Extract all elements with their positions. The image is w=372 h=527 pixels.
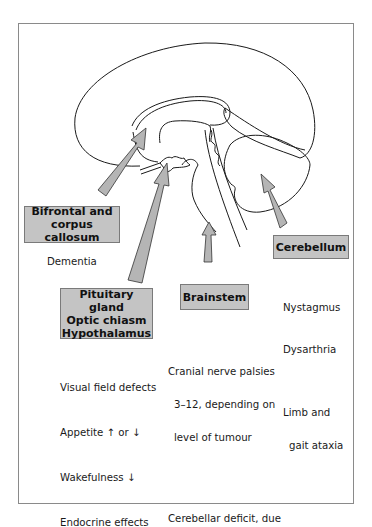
effect-wakefulness: Wakefulness ↓ (60, 470, 160, 485)
cerebellum-label: Cerebellum (276, 241, 347, 254)
effect-endocrine: Endocrine effects (60, 515, 160, 527)
effect-dysarthria: Dysarthria (283, 343, 343, 357)
corpus-callosum (132, 97, 230, 126)
cerebellum-label-box: Cerebellum (273, 235, 349, 259)
effect-nystagmus: Nystagmus (283, 301, 343, 315)
brainstem-label-box: Brainstem (180, 284, 249, 310)
optic-nerve-2 (141, 167, 161, 174)
thalamus (160, 121, 211, 143)
pituitary-label-line2: Optic chiasm (66, 314, 146, 327)
brainstem-anterior (182, 159, 216, 232)
bifrontal-label-box: Bifrontal and corpus callosum (24, 206, 120, 243)
pituitary-label-line1: Pituitary gland (61, 288, 152, 314)
cerebrum-outline (75, 43, 315, 166)
brainstem-effects: Cranial nerve palsies 3–12, depending on… (168, 322, 289, 527)
effect-appetite: Appetite ↑ or ↓ (60, 425, 160, 440)
cerebellum-effects: Nystagmus Dysarthria Limb and gait ataxi… (283, 273, 343, 487)
optic-nerve (140, 163, 160, 170)
arrow-cerebellum (261, 174, 287, 228)
effect-visual-field: Visual field defects (60, 380, 160, 395)
bifrontal-label-line1: Bifrontal and (31, 205, 112, 218)
bifrontal-effect-dementia: Dementia (47, 256, 97, 267)
arrow-pituitary (128, 163, 169, 283)
effect-cranial-palsies: Cranial nerve palsies 3–12, depending on… (168, 344, 289, 465)
brainstem-mid (213, 128, 247, 230)
fourth-ventricle (211, 130, 220, 166)
tentorium (225, 108, 305, 150)
pituitary-effects: Visual field defects Appetite ↑ or ↓ Wak… (60, 350, 160, 527)
effect-ataxia: Limb and gait ataxia (283, 385, 343, 473)
effect-cerebellar-deficit: Cerebellar deficit, due to impaired infl… (168, 491, 289, 527)
arrow-brainstem (202, 222, 216, 262)
pituitary-label-line3: Hypothalamus (62, 327, 151, 340)
brainstem-label: Brainstem (183, 291, 247, 304)
cerebellum-outline (224, 135, 310, 212)
pituitary-label-box: Pituitary gland Optic chiasm Hypothalamu… (60, 288, 153, 339)
bifrontal-label-line2: corpus callosum (25, 218, 119, 244)
